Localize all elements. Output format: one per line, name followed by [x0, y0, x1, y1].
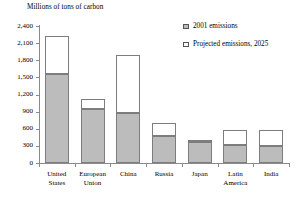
y-axis-tick-label: 0 [0, 160, 33, 167]
x-axis-category-label: UnitedStates [39, 170, 75, 187]
x-axis-category-label-line: Japan [182, 170, 218, 179]
bar-group[interactable] [81, 99, 105, 163]
emissions-bar-chart: Millions of tons of carbon 03006009001,2… [0, 0, 298, 197]
y-axis-tick [36, 60, 40, 61]
x-axis-category-label-line: China [110, 170, 146, 179]
y-axis-tick-label: 2,100 [0, 40, 33, 47]
chart-legend: 2001 emissions Projected emissions, 2025 [183, 22, 295, 58]
x-axis-category-label: EuropeanUnion [75, 170, 111, 187]
bar-segment-2001[interactable] [188, 142, 212, 163]
bar-segment-projected-2025[interactable] [259, 130, 283, 145]
bar-segment-2001[interactable] [45, 74, 69, 163]
legend-item-projected-emissions-2025: Projected emissions, 2025 [183, 40, 295, 49]
x-axis-tick [75, 163, 76, 167]
y-axis-tick-label: 1,800 [0, 57, 33, 64]
bar-group[interactable] [223, 130, 247, 163]
x-axis-category-label-line: India [253, 170, 289, 179]
bar-segment-projected-2025[interactable] [45, 36, 69, 74]
bar-group[interactable] [45, 36, 69, 163]
bar-segment-2001[interactable] [81, 109, 105, 163]
bar-group[interactable] [259, 130, 283, 163]
x-axis-category-label: Russia [146, 170, 182, 179]
x-axis-category-label-line: Latin [218, 170, 254, 179]
x-axis-tick [218, 163, 219, 167]
legend-label: 2001 emissions [193, 22, 238, 31]
bar-segment-2001[interactable] [259, 146, 283, 163]
x-axis-category-label-line: America [218, 179, 254, 188]
bar-segment-projected-2025[interactable] [116, 55, 140, 113]
x-axis-category-label-line: Union [75, 179, 111, 188]
y-axis-tick-label: 900 [0, 108, 33, 115]
x-axis-tick [182, 163, 183, 167]
x-axis-category-label-line: Russia [146, 170, 182, 179]
y-axis-tick-label: 1,200 [0, 91, 33, 98]
legend-swatch-filled-icon [183, 24, 189, 30]
bar-segment-2001[interactable] [116, 113, 140, 163]
x-axis-tick [289, 163, 290, 167]
x-axis-tick [110, 163, 111, 167]
x-axis-category-label: Japan [182, 170, 218, 179]
y-axis-tick [36, 146, 40, 147]
y-axis-tick-label: 600 [0, 125, 33, 132]
bar-group[interactable] [188, 141, 212, 163]
y-axis-tick-label: 2,400 [0, 23, 33, 30]
y-axis-tick [36, 129, 40, 130]
y-axis-title: Millions of tons of carbon [27, 3, 103, 12]
y-axis-tick [36, 112, 40, 113]
x-axis-category-label-line: States [39, 179, 75, 188]
bar-group[interactable] [152, 123, 176, 163]
bar-group[interactable] [116, 55, 140, 163]
y-axis-tick [36, 26, 40, 27]
x-axis-category-label-line: United [39, 170, 75, 179]
bar-segment-2001[interactable] [152, 136, 176, 163]
bar-segment-2001[interactable] [223, 145, 247, 163]
x-axis-category-label: China [110, 170, 146, 179]
legend-label: Projected emissions, 2025 [193, 40, 268, 49]
legend-item-2001-emissions: 2001 emissions [183, 22, 295, 31]
bar-segment-projected-2025[interactable] [152, 123, 176, 136]
x-axis-tick [39, 163, 40, 167]
bar-segment-projected-2025[interactable] [81, 99, 105, 109]
legend-swatch-hollow-icon [183, 42, 189, 48]
x-axis-category-label-line: European [75, 170, 111, 179]
x-axis-tick [253, 163, 254, 167]
y-axis-tick [36, 77, 40, 78]
y-axis-tick-label: 1,500 [0, 74, 33, 81]
y-axis-tick [36, 95, 40, 96]
x-axis-category-label: LatinAmerica [218, 170, 254, 187]
bar-segment-projected-2025[interactable] [223, 130, 247, 145]
y-axis-tick-label: 300 [0, 142, 33, 149]
x-axis-category-label: India [253, 170, 289, 179]
x-axis-tick [146, 163, 147, 167]
y-axis-tick [36, 43, 40, 44]
